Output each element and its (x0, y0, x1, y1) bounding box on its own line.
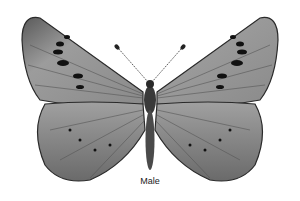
figure-caption: Male (0, 176, 300, 186)
body-thorax (144, 86, 156, 114)
right-hindwing (155, 102, 263, 181)
right-forewing (157, 17, 278, 105)
butterfly-illustration (0, 0, 300, 201)
body-abdomen (146, 110, 155, 170)
left-forewing (22, 17, 143, 105)
left-hindwing (38, 102, 146, 181)
